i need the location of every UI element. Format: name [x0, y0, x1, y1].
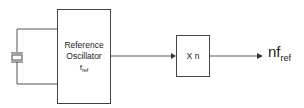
arrow-head-icon [257, 53, 263, 59]
multiplier-block: X n [176, 35, 210, 77]
reference-oscillator-label: Reference Oscillator fref [58, 40, 110, 76]
fref-label: fref [58, 62, 110, 76]
crystal-icon [11, 53, 23, 62]
output-subscript: ref [281, 53, 292, 63]
multiplier-label: X n [177, 51, 209, 61]
connection-wires [0, 0, 304, 108]
crystal-top-wire [17, 29, 57, 52]
ref-label-line2: Oscillator [58, 51, 110, 62]
output-label: nfref [268, 43, 291, 63]
ref-label-line1: Reference [58, 40, 110, 51]
fref-subscript: ref [82, 67, 88, 73]
reference-oscillator-block: Reference Oscillator fref [57, 9, 111, 104]
output-prefix: nf [268, 43, 281, 60]
crystal-bottom-wire [17, 62, 57, 84]
